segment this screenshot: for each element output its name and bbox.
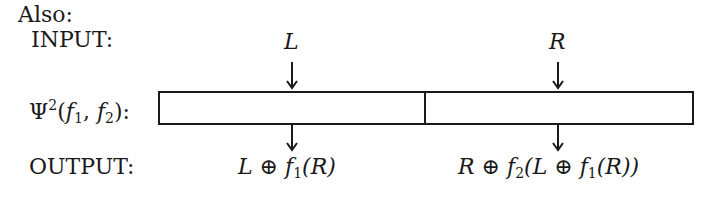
input-label: INPUT: [31,29,113,51]
down-arrow-icon [286,62,298,89]
psi-symbol: Ψ [29,99,48,124]
output-left-expr: L ⊕ f1(R) [238,156,336,180]
output-label: OUTPUT: [29,156,135,178]
psi-superscript: 2 [48,97,57,113]
feistel-block-box [158,91,694,125]
down-arrow-icon [286,124,298,151]
down-arrow-icon [552,62,564,89]
input-left-L: L [284,31,299,53]
also-label: Also: [18,4,73,26]
output-right-expr: R ⊕ f2(L ⊕ f1(R)) [458,156,639,180]
input-right-R: R [549,31,566,53]
block-divider [424,91,426,125]
down-arrow-icon [552,124,564,151]
function-label: Ψ2(f1, f2): [29,98,130,125]
